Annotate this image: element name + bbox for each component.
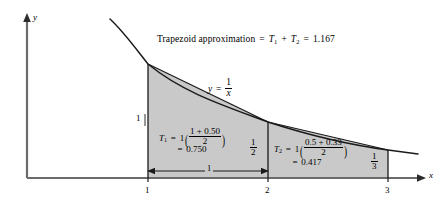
t1-subscript: 1: [164, 137, 167, 143]
y-axis-arrowhead: [23, 13, 31, 22]
x-tick-label-1: 1: [145, 186, 150, 195]
t1-equals: =: [169, 133, 177, 143]
t1-paren-close: ): [222, 133, 225, 148]
t2-paren-close: ): [344, 144, 347, 159]
t2-num-op: +: [319, 137, 324, 147]
curve-label-fraction: 1 x: [225, 78, 232, 99]
trapezoid-2-formula: T2 = 1(0.5 + 0.332): [274, 138, 348, 159]
figure-title: Trapezoid approximation = T1 + T2 = 1.16…: [157, 35, 335, 45]
t2-num-a: 0.5: [305, 137, 316, 147]
trapezoid-approximation-figure: Trapezoid approximation = T1 + T2 = 1.16…: [0, 0, 445, 209]
t2-result-value: 0.417: [301, 157, 321, 167]
x-axis-label: x: [429, 171, 433, 180]
t2-result-equals: =: [291, 157, 299, 167]
t1-num-b: 0.50: [204, 126, 220, 136]
height-x3-fraction: 1 3: [371, 152, 378, 172]
width-dimension-label: 1: [205, 164, 213, 173]
height-label-x1: 1: [136, 114, 141, 123]
x-tick-label-2: 2: [265, 186, 270, 195]
title-prefix: Trapezoid approximation: [157, 34, 255, 44]
height-x2-fraction: 1 2: [250, 138, 257, 158]
height-x2-denominator: 2: [250, 148, 257, 157]
x-tick-label-3: 3: [385, 186, 390, 195]
t1-result-equals: =: [176, 144, 184, 154]
curve-label-equals: =: [215, 84, 223, 94]
t2-fraction: 0.5 + 0.332: [304, 138, 343, 158]
t2-num-b: 0.33: [326, 137, 342, 147]
t1-coefficient: 1: [180, 133, 185, 143]
title-equals-1: =: [258, 34, 266, 44]
title-total-value: 1.167: [313, 34, 335, 44]
t1-result-value: 0.750: [186, 144, 206, 154]
t2-subscript: 2: [279, 148, 282, 154]
trapezoid-2-result: = 0.417: [291, 158, 322, 167]
y-axis-label: y: [33, 13, 37, 22]
plot-canvas: [0, 0, 445, 209]
curve-equation-label: y = 1 x: [208, 78, 232, 99]
trapezoid-1-result: = 0.750: [176, 145, 207, 154]
t2-coefficient: 1: [295, 144, 300, 154]
curve-label-y: y: [208, 84, 212, 94]
title-plus: +: [280, 34, 288, 44]
title-equals-2: =: [302, 34, 310, 44]
height-label-x2: 1 2: [250, 138, 257, 158]
height-label-x3: 1 3: [371, 152, 378, 172]
t1-num-op: +: [197, 126, 202, 136]
curve-label-denominator: x: [225, 89, 232, 99]
t1-num-a: 1: [190, 126, 195, 136]
x-axis-arrowhead: [417, 174, 426, 182]
title-t2-subscript: 2: [296, 38, 299, 45]
t2-equals: =: [284, 144, 292, 154]
title-t1-subscript: 1: [274, 38, 277, 45]
height-x3-denominator: 3: [371, 162, 378, 171]
